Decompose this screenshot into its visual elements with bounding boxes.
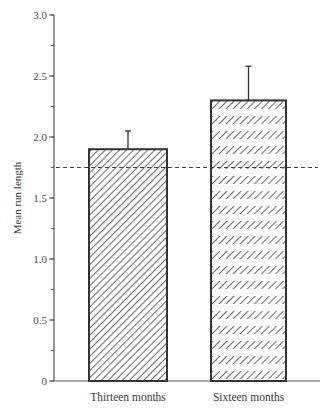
bar-chart: 00.51.01.52.02.53.0 Thirteen monthsSixte… <box>0 0 332 412</box>
y-tick-label: 0 <box>42 375 48 387</box>
y-tick-label: 1.0 <box>33 253 47 265</box>
y-tick-label: 3.0 <box>33 9 47 21</box>
bars <box>89 100 286 381</box>
bar-1 <box>89 149 167 381</box>
y-tick-label: 2.5 <box>33 70 47 82</box>
y-axis-title: Mean run length <box>11 161 23 234</box>
bar-2 <box>211 100 286 381</box>
y-tick-label: 0.5 <box>33 314 47 326</box>
category-label: Thirteen months <box>90 391 166 403</box>
y-axis: 00.51.01.52.02.53.0 <box>33 9 54 387</box>
category-label: Sixteen months <box>213 391 285 403</box>
y-tick-label: 1.5 <box>33 192 47 204</box>
y-tick-label: 2.0 <box>33 131 47 143</box>
x-axis: Thirteen monthsSixteen months <box>54 381 320 403</box>
